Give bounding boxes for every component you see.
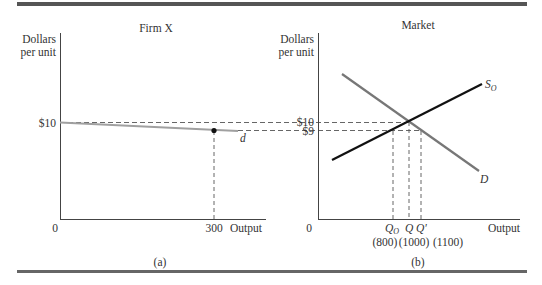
market-demand-curve: [342, 74, 479, 171]
panel-b-xlabel: Output: [488, 222, 521, 235]
panel-a-ylabel-1: Dollars: [22, 33, 56, 45]
panel-b-caption: (b): [411, 256, 425, 269]
panel-b-ylabel-1: Dollars: [280, 33, 314, 45]
tick-q: Q: [405, 222, 414, 234]
top-rule: [17, 2, 527, 6]
firm-demand-curve: [60, 123, 238, 132]
panel-b-market: Market Dollars per unit $10 $9 SO D 0 QO…: [279, 19, 521, 269]
demand-label: D: [479, 173, 489, 185]
panel-b-origin: 0: [306, 222, 312, 234]
bottom-rule: [17, 270, 527, 273]
value-q: (1000): [399, 236, 430, 249]
panel-a-price-tick: $10: [39, 117, 57, 129]
panel-a-ylabel-2: per unit: [21, 46, 57, 59]
panel-a-xlabel: Output: [230, 222, 263, 235]
panel-b-title: Market: [401, 19, 435, 31]
panel-b-price-9: $9: [303, 125, 315, 137]
tick-q-prime: Q': [416, 222, 427, 234]
supply-label: SO: [485, 78, 497, 93]
firm-point: [211, 128, 216, 133]
value-q-prime: (1100): [433, 236, 463, 249]
figure-canvas: Firm X Dollars per unit $10 d 0 300 Outp…: [0, 0, 542, 285]
value-q0: (800): [373, 236, 398, 249]
panel-a-title: Firm X: [139, 22, 173, 34]
panel-a-caption: (a): [154, 256, 167, 269]
market-supply-curve: [332, 84, 482, 160]
panel-a-origin: 0: [52, 222, 58, 234]
panel-a-quantity-tick: 300: [205, 222, 223, 234]
firm-demand-label: d: [240, 132, 246, 144]
tick-q0: QO: [385, 222, 399, 236]
panel-b-ylabel-2: per unit: [279, 46, 315, 59]
